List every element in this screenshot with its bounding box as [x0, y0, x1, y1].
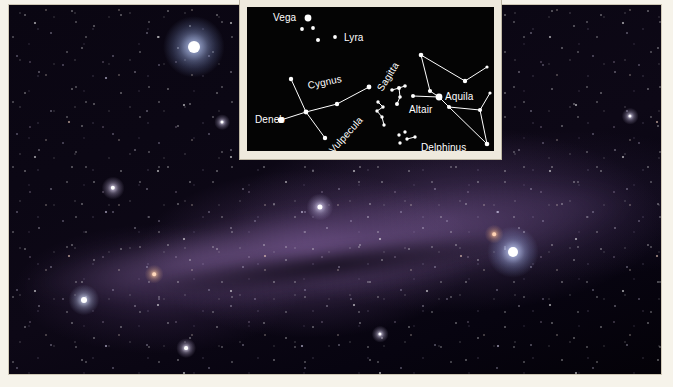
chart-star-lyra-d: [333, 35, 337, 39]
chart-star-sag-c: [403, 84, 407, 88]
altair-bright-star: [508, 247, 518, 257]
chart-star-cyg-south: [323, 136, 327, 140]
chart-star-aql-west: [411, 94, 415, 98]
chart-star-vul-c: [375, 109, 378, 112]
chart-star-aql-tail: [485, 142, 490, 147]
constellation-line-aquila-2: [465, 67, 487, 81]
chart-star-cyg-north: [289, 77, 293, 81]
constellation-chart-canvas: VegaLyraCygnusDenebVulpeculaSagittaAltai…: [247, 7, 494, 151]
chart-star-sag-e: [395, 102, 399, 106]
constellation-line-cygnus-spine-1: [291, 79, 306, 112]
constellation-line-aquila-7: [449, 107, 480, 110]
chart-star-altair-star: [436, 94, 443, 101]
constellation-line-cygnus-wing-2: [306, 104, 337, 112]
chart-star-aql-top: [419, 53, 424, 58]
chart-star-cyg-east: [367, 85, 372, 90]
field-star-ruddy: [152, 272, 156, 276]
chart-star-del-b: [403, 130, 406, 133]
field-star-upper-mid: [221, 121, 224, 124]
chart-star-lyra-c: [316, 38, 320, 42]
constellation-line-aquila-1: [421, 55, 465, 81]
constellation-line-aquila-5: [413, 96, 439, 97]
constellation-label-delphinus: Delphinus: [421, 143, 466, 151]
constellation-line-aquila-10: [449, 107, 487, 144]
chart-star-vul-b: [381, 105, 384, 108]
chart-star-vul-d: [380, 115, 383, 118]
chart-star-del-a: [397, 133, 400, 136]
constellation-label-aquila: Aquila: [445, 92, 473, 102]
chart-star-lyra-a: [300, 27, 304, 31]
chart-star-cyg-mid-e: [335, 102, 339, 106]
chart-star-del-c: [405, 137, 408, 140]
constellation-lines-and-stars: [247, 7, 494, 151]
constellation-label-lyra: Lyra: [344, 33, 363, 43]
chart-star-sag-b: [397, 86, 401, 90]
field-star-right-upper: [492, 232, 496, 236]
constellation-line-aquila-3: [421, 55, 430, 91]
constellation-chart-inset: VegaLyraCygnusDenebVulpeculaSagittaAltai…: [240, 0, 501, 159]
constellation-line-cygnus-wing-3: [337, 87, 369, 104]
constellation-line-cygnus-spine-2: [306, 112, 325, 138]
constellation-label-deneb: Deneb: [255, 115, 285, 125]
chart-star-vul-e: [382, 123, 385, 126]
chart-star-lyra-b: [311, 26, 315, 30]
chart-star-sag-a: [390, 88, 394, 92]
constellation-line-aquila-8: [480, 93, 490, 110]
constellation-label-vega: Vega: [273, 13, 296, 23]
astrophoto-page: VegaLyraCygnusDenebVulpeculaSagittaAltai…: [0, 0, 673, 387]
chart-star-aql-upper-e: [463, 79, 467, 83]
chart-star-aql-ne-tip: [488, 91, 491, 94]
chart-star-aql-south-w: [447, 105, 451, 109]
vega-bright-star: [188, 41, 200, 53]
chart-star-cyg-center: [304, 110, 309, 115]
field-star-left: [81, 297, 87, 303]
constellation-label-altair: Altair: [409, 105, 432, 115]
chart-star-del-e: [413, 135, 416, 138]
field-star-mid: [184, 346, 188, 350]
chart-star-aql-neck: [428, 89, 432, 93]
chart-star-del-d: [398, 141, 401, 144]
chart-star-sag-d: [398, 95, 402, 99]
chart-star-vul-a: [376, 100, 379, 103]
chart-star-vega-star: [305, 15, 312, 22]
chart-star-aql-tip-e: [485, 65, 488, 68]
chart-star-aql-east: [478, 108, 482, 112]
